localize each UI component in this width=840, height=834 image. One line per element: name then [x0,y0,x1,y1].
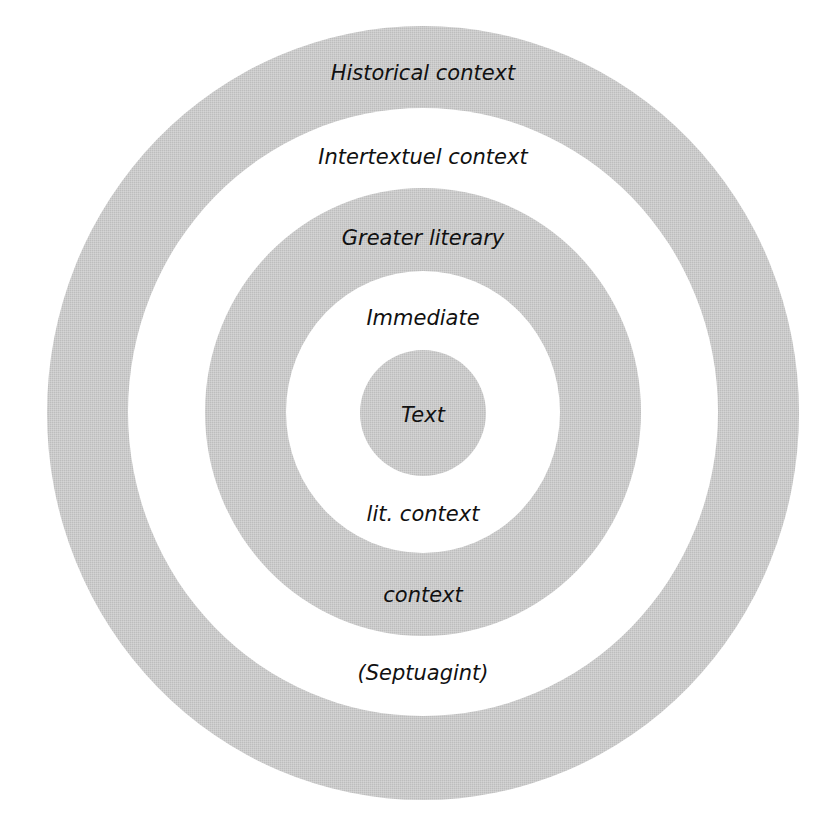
label-historical-context: Historical context [0,63,840,84]
label-lit-context: lit. context [0,504,840,525]
label-text: Text [0,405,840,426]
label-context: context [0,585,840,606]
label-greater-literary: Greater literary [0,228,840,249]
label-immediate: Immediate [0,308,840,329]
label-intertextual-context: Intertextuel context [0,147,840,168]
label-septuagint: (Septuagint) [0,663,840,684]
